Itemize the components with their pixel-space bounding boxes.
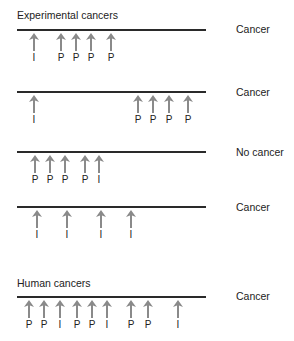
up-arrow-icon xyxy=(29,33,39,51)
initiator-label: I xyxy=(29,52,39,63)
up-arrow-icon xyxy=(71,33,81,51)
human-cancers-title: Human cancers xyxy=(17,277,91,289)
up-arrow-icon xyxy=(126,210,136,228)
up-arrow-icon xyxy=(102,300,112,318)
up-arrow-icon xyxy=(173,300,183,318)
promoter-label: P xyxy=(106,52,116,63)
up-arrow-icon xyxy=(39,300,49,318)
promoter-label: P xyxy=(72,319,82,330)
promoter-label: P xyxy=(80,174,90,185)
promoter-label: P xyxy=(71,52,81,63)
promoter-label: P xyxy=(39,319,49,330)
up-arrow-icon xyxy=(143,300,153,318)
promoter-label: P xyxy=(30,174,40,185)
timeline-1 xyxy=(17,29,206,31)
promoter-label: P xyxy=(45,174,55,185)
initiator-label: I xyxy=(96,229,106,240)
initiator-label: I xyxy=(102,319,112,330)
promoter-label: P xyxy=(183,114,193,125)
outcome-label-3: No cancer xyxy=(236,146,284,158)
up-arrow-icon xyxy=(55,300,65,318)
initiator-label: I xyxy=(29,114,39,125)
up-arrow-icon xyxy=(72,300,82,318)
up-arrow-icon xyxy=(133,95,143,113)
up-arrow-icon xyxy=(45,155,55,173)
timeline-2 xyxy=(17,91,206,93)
timeline-5 xyxy=(17,296,206,298)
up-arrow-icon xyxy=(183,95,193,113)
timeline-4 xyxy=(17,206,206,208)
up-arrow-icon xyxy=(56,33,66,51)
up-arrow-icon xyxy=(29,95,39,113)
up-arrow-icon xyxy=(30,155,40,173)
outcome-label-1: Cancer xyxy=(236,23,270,35)
up-arrow-icon xyxy=(80,155,90,173)
experimental-cancers-title: Experimental cancers xyxy=(17,9,118,21)
promoter-label: P xyxy=(87,319,97,330)
up-arrow-icon xyxy=(87,300,97,318)
up-arrow-icon xyxy=(106,33,116,51)
initiator-label: I xyxy=(94,174,104,185)
up-arrow-icon xyxy=(24,300,34,318)
up-arrow-icon xyxy=(126,300,136,318)
up-arrow-icon xyxy=(62,210,72,228)
promoter-label: P xyxy=(133,114,143,125)
initiator-label: I xyxy=(173,319,183,330)
promoter-label: P xyxy=(148,114,158,125)
outcome-label-2: Cancer xyxy=(236,86,270,98)
promoter-label: P xyxy=(126,319,136,330)
promoter-label: P xyxy=(56,52,66,63)
up-arrow-icon xyxy=(60,155,70,173)
outcome-label-5: Cancer xyxy=(236,290,270,302)
up-arrow-icon xyxy=(94,155,104,173)
up-arrow-icon xyxy=(164,95,174,113)
up-arrow-icon xyxy=(32,210,42,228)
initiator-label: I xyxy=(62,229,72,240)
timeline-3 xyxy=(17,151,206,153)
promoter-label: P xyxy=(24,319,34,330)
initiator-label: I xyxy=(55,319,65,330)
promoter-label: P xyxy=(164,114,174,125)
up-arrow-icon xyxy=(86,33,96,51)
outcome-label-4: Cancer xyxy=(236,201,270,213)
up-arrow-icon xyxy=(96,210,106,228)
initiator-label: I xyxy=(32,229,42,240)
up-arrow-icon xyxy=(148,95,158,113)
promoter-label: P xyxy=(60,174,70,185)
promoter-label: P xyxy=(86,52,96,63)
promoter-label: P xyxy=(143,319,153,330)
initiator-label: I xyxy=(126,229,136,240)
